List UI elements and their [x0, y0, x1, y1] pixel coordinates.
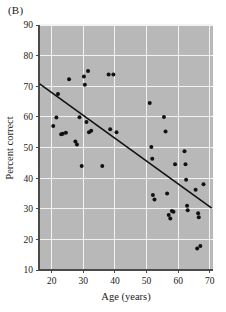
data-point [80, 164, 84, 168]
data-point [194, 188, 198, 192]
data-point [148, 101, 152, 105]
x-axis-title: Age (years) [101, 291, 151, 303]
figure-panel-b: (B) 102030405060708090 203040506070 Age … [0, 0, 226, 312]
data-point [86, 69, 90, 73]
data-point [51, 124, 55, 128]
data-point [167, 213, 171, 217]
data-point [186, 208, 190, 212]
x-tick-label: 40 [110, 276, 120, 286]
data-point [115, 130, 119, 134]
data-point [171, 210, 175, 214]
y-tick-label: 40 [24, 174, 34, 184]
y-tick-label: 20 [24, 235, 34, 245]
data-point [82, 74, 86, 78]
data-point [164, 130, 168, 134]
x-tick-label: 20 [47, 276, 57, 286]
y-tick-label: 60 [24, 112, 34, 122]
data-point [107, 73, 111, 77]
y-tick-label: 90 [24, 20, 34, 30]
data-point [183, 162, 187, 166]
x-tick-label: 30 [79, 276, 89, 286]
data-point [83, 83, 87, 87]
x-tick-label: 50 [142, 276, 152, 286]
data-point [185, 204, 189, 208]
data-point [197, 215, 201, 219]
data-point [149, 145, 153, 149]
y-tick-label: 10 [24, 265, 34, 275]
data-point [173, 162, 177, 166]
y-axis-title: Percent correct [4, 116, 15, 179]
y-tick-label: 80 [24, 51, 34, 61]
x-axis-tick-labels: 203040506070 [47, 276, 215, 286]
data-point [150, 157, 154, 161]
data-point [100, 164, 104, 168]
data-point [111, 73, 115, 77]
scatter-chart: 102030405060708090 203040506070 Age (yea… [0, 0, 226, 312]
data-point [152, 198, 156, 202]
data-point [89, 129, 93, 133]
data-point [198, 244, 202, 248]
data-point [77, 115, 81, 119]
data-point [108, 127, 112, 131]
data-point [183, 149, 187, 153]
data-point [195, 247, 199, 251]
data-point [184, 178, 188, 182]
y-axis-tick-labels: 102030405060708090 [24, 20, 34, 275]
data-point [54, 115, 58, 119]
x-tick-label: 70 [205, 276, 215, 286]
x-tick-label: 60 [173, 276, 183, 286]
data-point [67, 77, 71, 81]
data-point [168, 217, 172, 221]
data-point [162, 115, 166, 119]
data-point [64, 131, 68, 135]
data-point [165, 191, 169, 195]
y-tick-label: 50 [24, 143, 34, 153]
data-point [84, 120, 88, 124]
data-point [56, 92, 60, 96]
data-point [202, 182, 206, 186]
y-tick-label: 70 [24, 82, 34, 92]
data-point [196, 211, 200, 215]
data-point [75, 142, 79, 146]
y-tick-label: 30 [24, 204, 34, 214]
data-point [151, 193, 155, 197]
